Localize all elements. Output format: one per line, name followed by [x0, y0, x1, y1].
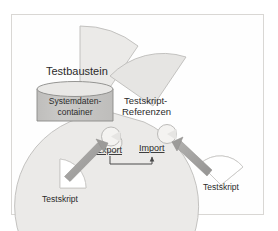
testskript-right-label: Testskript [203, 182, 240, 192]
diagram-canvas: Testbaustein Testskript- Referenzen Syst… [0, 0, 278, 231]
testskript-left-label: Testskript [42, 194, 79, 204]
testskript-referenzen-label-line2: Referenzen [122, 106, 171, 117]
testskript-referenzen-label-line1: Testskript- [124, 95, 167, 106]
systemdatencontainer-top [37, 82, 113, 97]
import-label: Import [139, 143, 165, 153]
systemdatencontainer-label-line1: Systemdaten- [49, 96, 102, 106]
systemdatencontainer-label-line2: container [58, 107, 93, 117]
node-systemdatencontainer[interactable]: Systemdaten- container [37, 82, 113, 122]
diagram-scene: Testbaustein Testskript- Referenzen Syst… [0, 0, 278, 231]
